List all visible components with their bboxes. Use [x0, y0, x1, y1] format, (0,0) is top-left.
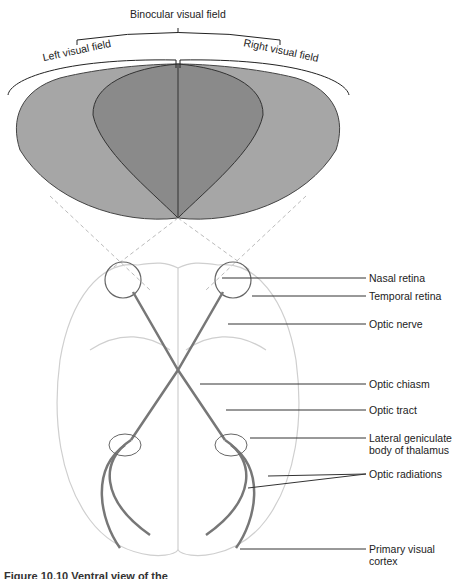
label-optic-tract: Optic tract — [369, 404, 417, 416]
label-primary-visual-cortex: Primary visual — [369, 543, 435, 555]
label-optic-chiasm: Optic chiasm — [369, 378, 430, 390]
visual-field-group — [16, 64, 339, 219]
label-nasal-retina: Nasal retina — [369, 272, 425, 284]
label-optic-nerve: Optic nerve — [369, 318, 423, 330]
leader-lines — [200, 278, 366, 549]
figure-caption: Figure 10.10 Ventral view of the — [4, 568, 168, 579]
binocular-field-label: Binocular visual field — [130, 8, 226, 20]
label-temporal-retina: Temporal retina — [369, 290, 441, 302]
brain-outline — [57, 263, 299, 556]
label-lateral-geniculate: Lateral geniculate — [369, 432, 452, 444]
label-lateral-geniculate-line2: body of thalamus — [369, 444, 449, 456]
label-primary-visual-cortex-line2: cortex — [369, 555, 398, 567]
label-optic-radiations: Optic radiations — [369, 468, 442, 480]
